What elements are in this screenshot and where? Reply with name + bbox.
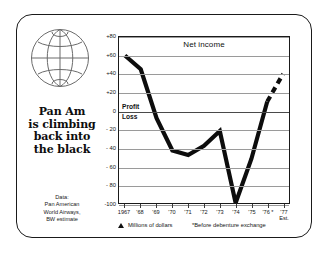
x-axis-tickmark [156, 204, 157, 208]
series-line [125, 55, 267, 203]
x-axis-tick: '75 [248, 209, 255, 215]
y-axis-tick: 0 [113, 108, 116, 114]
x-axis-tick: '70 [168, 209, 175, 215]
gridline [119, 130, 289, 131]
legend-unit: Millions of dollars [128, 222, 172, 228]
source-line-2: Pan American [22, 201, 102, 208]
y-axis-tick: +20 [106, 89, 116, 95]
x-axis-tickmark [268, 204, 269, 208]
y-axis-tick: +40 [106, 70, 116, 76]
x-axis-tickmark [188, 204, 189, 208]
x-axis-tick: '77Est. [279, 209, 289, 222]
plot-area: Net income Profit Loss [118, 36, 290, 204]
series-line-estimate [267, 74, 283, 102]
x-axis-tick: 1967 [118, 209, 130, 215]
x-axis-tick: '72 [200, 209, 207, 215]
gridline [119, 56, 289, 57]
y-axis-tick: - 20 [106, 126, 116, 132]
y-axis: +80+60+40+200- 20- 40- 60- 80-100 [92, 36, 116, 204]
x-axis-tickmark [204, 204, 205, 208]
gridline [119, 93, 289, 94]
x-axis-tickmark [172, 204, 173, 208]
y-axis-tick: +80 [106, 33, 116, 39]
x-axis-tick: '71 [184, 209, 191, 215]
source-credit: Data: Pan American World Airways, BW est… [22, 194, 102, 224]
x-axis-tickmark [236, 204, 237, 208]
x-axis-tickmark [140, 204, 141, 208]
gridline [119, 168, 289, 169]
source-line-3: World Airways, [22, 209, 102, 216]
gridline [119, 37, 289, 38]
y-axis-tick: -100 [104, 201, 116, 207]
triangle-icon [118, 223, 124, 228]
gridline [119, 186, 289, 187]
x-axis-tick: '68 [136, 209, 143, 215]
x-axis-tick: '76 * [262, 209, 273, 215]
x-axis-tickmark [220, 204, 221, 208]
y-axis-tick: +60 [106, 52, 116, 58]
x-axis-tickmark [124, 204, 125, 208]
chart-figure: Pan Am is climbing back into the black D… [0, 0, 326, 257]
x-axis-tickmark [284, 204, 285, 208]
zero-line [119, 112, 289, 113]
source-line-1: Data: [22, 194, 102, 201]
x-axis-tick: '69 [152, 209, 159, 215]
x-axis-tick: '73 [216, 209, 223, 215]
y-axis-tick: - 60 [106, 164, 116, 170]
net-income-series [119, 37, 289, 203]
legend: Millions of dollars *Before debenture ex… [118, 221, 308, 233]
legend-footnote: *Before debenture exchange [192, 222, 266, 228]
source-line-4: BW estimate [22, 216, 102, 223]
y-axis-tick: - 80 [106, 182, 116, 188]
gridline [119, 149, 289, 150]
x-axis: 1967'68'69'70'71'72'73'74'75'76 *'77Est. [118, 204, 290, 222]
x-axis-tickmark [252, 204, 253, 208]
pan-am-globe-icon [30, 28, 90, 88]
y-axis-tick: - 40 [106, 145, 116, 151]
gridline [119, 74, 289, 75]
x-axis-tick: '74 [232, 209, 239, 215]
